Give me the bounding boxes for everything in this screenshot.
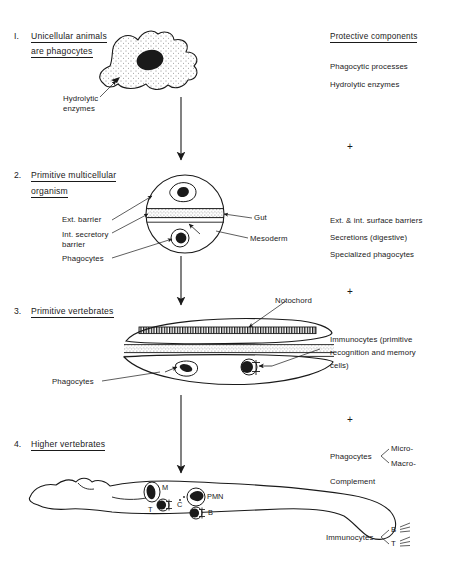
phagocytes-label-stage2: Phagocytes xyxy=(62,254,104,263)
primitive-vertebrate-organism xyxy=(124,319,334,385)
protective-components-heading-text: Protective components xyxy=(330,32,417,43)
stage-1-number: I. xyxy=(14,31,19,41)
separator-plus-3: + xyxy=(347,414,353,426)
protective-component-hydrolytic-enzymes: Hydrolytic enzymes xyxy=(330,80,399,89)
protective-component-immunocytes-line1: Immunocytes (primitive xyxy=(330,335,412,344)
t-cell-marker-label: T xyxy=(148,506,153,515)
stage-3-heading: Primitive vertebrates xyxy=(31,306,114,316)
stage-1-heading-line1: Unicellular animals xyxy=(31,31,107,41)
phagocytes-leader-stage3 xyxy=(102,372,160,381)
protective-component-phagocytic-processes: Phagocytic processes xyxy=(330,62,408,71)
stage-2-heading-line1-text: Primitive multicellular xyxy=(31,170,116,182)
stage-3-heading-text: Primitive vertebrates xyxy=(31,306,114,318)
protective-component-secretions: Secretions (digestive) xyxy=(330,233,407,242)
phagocyte-type-bracket xyxy=(381,449,389,463)
stage-2-heading-line1: Primitive multicellular xyxy=(31,170,116,180)
gut-leader xyxy=(224,214,252,218)
complement-marker-label: C xyxy=(177,501,182,510)
hydrolytic-enzymes-label-line1: Hydrolytic xyxy=(63,94,98,103)
stage-2-number: 2. xyxy=(14,170,21,180)
protective-component-immunocytes-line2: recognition and memory xyxy=(330,348,416,357)
stage-1-heading-line1-text: Unicellular animals xyxy=(31,31,107,43)
pmn-cell xyxy=(187,488,205,506)
phagocytes-group-label: Phagocytes xyxy=(330,452,372,461)
stage-1-heading-line2-text: are phagocytes xyxy=(31,46,93,58)
stage-2-heading-line2: organism xyxy=(31,186,68,196)
protective-component-specialized-phagocytes: Specialized phagocytes xyxy=(330,250,414,259)
mesoderm-leader xyxy=(216,231,248,238)
stage-4-heading: Higher vertebrates xyxy=(31,439,105,449)
multicellular-sphere-organism xyxy=(146,175,224,253)
stage-4-heading-text: Higher vertebrates xyxy=(31,439,105,451)
pmn-marker-label: PMN xyxy=(207,493,223,502)
notochord-bar xyxy=(139,327,316,334)
immunocyte-type-b: B xyxy=(391,525,396,534)
protective-component-immunocytes-line3: cells) xyxy=(330,361,349,370)
amoeba-organism xyxy=(100,31,197,89)
immunocytes-group-label: Immunocytes xyxy=(326,533,373,542)
phagocyte-cell-lower xyxy=(171,229,189,247)
int-secretory-barrier-label-line2: barrier xyxy=(62,240,85,249)
complement-group-label: Complement xyxy=(330,477,375,486)
b-cell-marker-label: B xyxy=(208,509,213,518)
protective-components-heading: Protective components xyxy=(330,32,417,42)
immunocyte-type-t: T xyxy=(391,539,396,548)
macrophage-cell xyxy=(144,482,160,502)
gut-label: Gut xyxy=(254,213,267,222)
phagocyte-type-macro: Macro- xyxy=(391,459,416,468)
macrophage-marker-label: M xyxy=(162,484,168,493)
stage-4-number: 4. xyxy=(14,439,21,449)
phagocyte-cell-stage3 xyxy=(175,361,198,376)
protective-component-surface-barriers: Ext. & int. surface barriers xyxy=(330,216,423,225)
mesoderm-label: Mesoderm xyxy=(250,234,288,243)
int-secretory-barrier-label-line1: Int. secretory xyxy=(62,230,108,239)
separator-plus-2: + xyxy=(347,286,353,298)
phagocytes-leader-stage2 xyxy=(112,239,172,258)
stage-1-heading-line2: are phagocytes xyxy=(31,46,93,56)
hydrolytic-enzymes-label-line2: enzymes xyxy=(63,104,95,113)
stage-2-heading-line2-text: organism xyxy=(31,186,68,198)
phagocyte-cell-upper xyxy=(170,183,196,202)
phagocytes-label-stage3: Phagocytes xyxy=(52,377,94,386)
stage-3-number: 3. xyxy=(14,306,21,316)
ext-barrier-label: Ext. barrier xyxy=(62,215,101,224)
phagocyte-type-micro: Micro- xyxy=(391,444,413,453)
evolution-of-immunity-figure: I. Unicellular animals are phagocytes Hy… xyxy=(0,0,461,568)
separator-plus-1: + xyxy=(347,141,353,153)
notochord-label: Notochord xyxy=(275,296,312,305)
